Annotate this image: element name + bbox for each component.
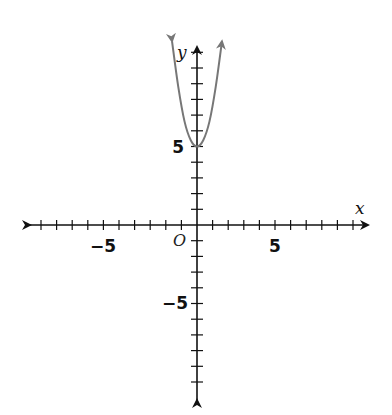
y-tick-label-neg5: −5 xyxy=(162,293,188,313)
coordinate-plane: x y O −5 5 5 −5 xyxy=(0,0,392,415)
x-axis-label: x xyxy=(355,198,365,218)
x-tick-label-5: 5 xyxy=(269,236,281,256)
origin-label: O xyxy=(173,231,186,250)
y-axis-label: y xyxy=(176,42,187,62)
y-tick-label-5: 5 xyxy=(172,137,184,157)
x-tick-label-neg5: −5 xyxy=(90,236,116,256)
